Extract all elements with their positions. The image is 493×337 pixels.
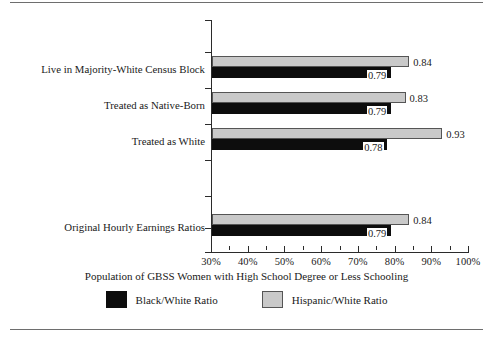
chart-legend: Black/White Ratio Hispanic/White Ratio [0,291,493,308]
x-axis-minor-tick [303,246,304,250]
value-label-black-white-ratio: 0.79 [367,70,387,81]
y-axis-tick [205,160,211,161]
x-axis-minor-tick [413,246,414,250]
x-axis-major-tick [395,246,396,253]
y-axis-tick [205,20,211,21]
x-axis-minor-tick [229,246,230,250]
x-axis-major-tick [358,246,359,253]
figure-container: 30%40%50%60%70%80%90%100% Live in Majori… [0,0,493,337]
x-axis-major-tick [468,246,469,253]
x-axis-minor-tick [376,246,377,250]
x-axis-major-tick [248,246,249,253]
x-axis-major-tick [284,246,285,253]
y-axis-tick [205,228,211,229]
value-label-hispanic-white-ratio: 0.93 [445,129,465,140]
value-label-black-white-ratio: 0.79 [367,106,387,117]
x-axis-tick-label: 60% [311,256,331,267]
x-axis-tick-label: 30% [201,256,221,267]
bar-chart-plot-area: 30%40%50%60%70%80%90%100% Live in Majori… [0,0,493,337]
x-axis-tick-label: 90% [422,256,442,267]
bar-hispanic-white-ratio [212,214,409,225]
category-label-original-hourly-earnings-ratios: Original Hourly Earnings Ratios [64,221,205,233]
x-axis-minor-tick [340,246,341,250]
legend-swatch-icon-gray [262,291,283,308]
legend-label-hispanic-white-ratio: Hispanic/White Ratio [292,294,388,306]
x-axis-minor-tick [450,246,451,250]
category-label-majority-white-census-block: Live in Majority-White Census Block [41,63,205,75]
y-axis-tick [205,196,211,197]
y-axis-tick [205,88,211,89]
y-axis-tick [205,124,211,125]
x-axis-major-tick [211,246,212,253]
bar-black-white-ratio [212,225,391,236]
x-axis-tick-label: 40% [238,256,258,267]
value-label-hispanic-white-ratio: 0.84 [412,57,432,68]
legend-label-black-white-ratio: Black/White Ratio [136,294,218,306]
x-axis-title: Population of GBSS Women with High Schoo… [0,270,493,282]
x-axis-minor-tick [266,246,267,250]
x-axis-major-tick [431,246,432,253]
category-label-treated-as-native-born: Treated as Native-Born [104,99,205,111]
y-axis-tick [205,52,211,53]
bar-hispanic-white-ratio [212,56,409,67]
legend-item-black-white-ratio: Black/White Ratio [106,291,218,308]
x-axis-tick-label: 50% [275,256,295,267]
value-label-black-white-ratio: 0.78 [363,142,383,153]
bar-hispanic-white-ratio [212,92,406,103]
bar-black-white-ratio [212,103,391,114]
x-axis-tick-label: 80% [385,256,405,267]
value-label-hispanic-white-ratio: 0.84 [412,215,432,226]
x-axis-major-tick [321,246,322,253]
legend-swatch-icon-black [106,291,127,308]
bar-hispanic-white-ratio [212,128,442,139]
value-label-black-white-ratio: 0.79 [367,228,387,239]
category-label-treated-as-white: Treated as White [132,135,205,147]
value-label-hispanic-white-ratio: 0.83 [409,93,429,104]
bar-black-white-ratio [212,67,391,78]
legend-item-hispanic-white-ratio: Hispanic/White Ratio [262,291,388,308]
bar-black-white-ratio [212,139,387,150]
x-axis-tick-label: 100% [456,256,481,267]
x-axis-tick-label: 70% [348,256,368,267]
